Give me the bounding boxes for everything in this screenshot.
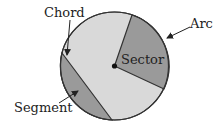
circle-parts-diagram: Chord Arc Sector Segment (0, 0, 224, 127)
sector-label: Sector (121, 52, 165, 67)
center-point (112, 63, 117, 68)
chord-label: Chord (44, 5, 85, 20)
arc-arrow (167, 27, 190, 38)
arc-label: Arc (189, 16, 213, 31)
segment-label: Segment (14, 100, 73, 115)
